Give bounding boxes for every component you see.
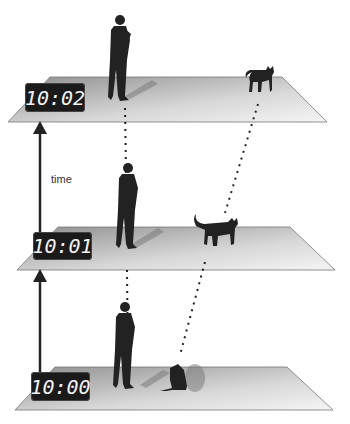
clock-1001: 10:01	[33, 232, 92, 260]
diagram-canvas	[0, 0, 350, 424]
clock-1000: 10:00	[31, 372, 90, 401]
time-axis-label: time	[51, 173, 72, 185]
clock-1002: 10:02	[25, 83, 85, 112]
cat-walking-icon	[246, 66, 275, 92]
